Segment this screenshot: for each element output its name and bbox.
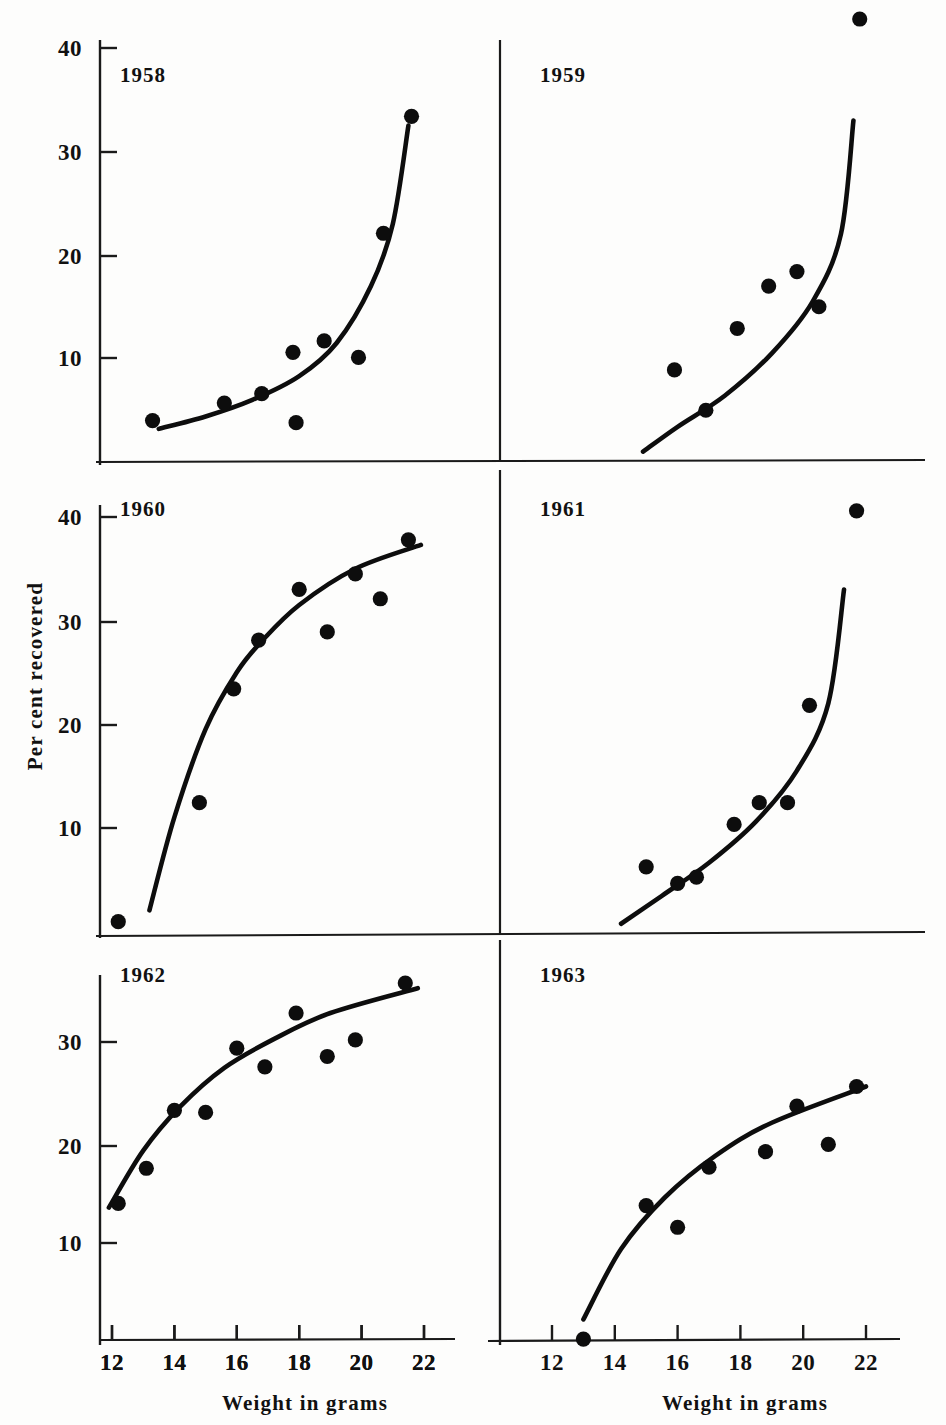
data-point-1963-5: [789, 1099, 804, 1114]
fit-curve-1963: [583, 1087, 866, 1320]
x-tick-label-1962-18: 18: [287, 1350, 311, 1375]
data-point-1962-1: [139, 1161, 154, 1176]
y-tick-label-1960-40: 40: [58, 505, 82, 530]
figure-panel-grid: 4030201012141618202219581959403020101960…: [0, 0, 946, 1425]
data-point-1958-8: [404, 109, 419, 124]
panel-year-label-1960: 1960: [120, 497, 166, 521]
fit-curve-1962: [109, 988, 418, 1207]
x-tick-label-1963-12: 12: [540, 1350, 564, 1375]
x-tick-label-1963-14: 14: [603, 1350, 627, 1375]
x-tick-label-1962-22: 22: [412, 1350, 436, 1375]
panel-divider-horizontal-2: [96, 932, 925, 936]
data-point-1963-0: [576, 1331, 591, 1346]
data-point-1960-7: [373, 591, 388, 606]
data-point-1960-3: [251, 633, 266, 648]
data-point-1961-6: [802, 698, 817, 713]
x-tick-label-1962-16: 16: [225, 1350, 249, 1375]
x-tick-label-1963-16: 16: [666, 1350, 690, 1375]
data-point-1958-2: [254, 386, 269, 401]
data-point-1963-1: [639, 1198, 654, 1213]
y-tick-label-1962-30: 30: [58, 1030, 82, 1055]
panel-1962: 3020101214161820221962: [58, 963, 436, 1375]
fit-curve-1959: [643, 120, 853, 451]
y-tick-label-1958-10: 10: [58, 346, 82, 371]
panel-year-label-1963: 1963: [540, 963, 586, 987]
data-point-1962-4: [229, 1041, 244, 1056]
data-point-1960-5: [320, 624, 335, 639]
data-point-1963-3: [701, 1160, 716, 1175]
panel-1961: 1961: [540, 497, 864, 924]
panel-1960: 403020101960: [58, 497, 421, 929]
panel-year-label-1961: 1961: [540, 497, 586, 521]
data-point-1960-1: [192, 795, 207, 810]
data-point-1962-5: [257, 1059, 272, 1074]
x-axis-title-left: Weight in grams: [222, 1391, 388, 1415]
multi-panel-scatter-figure: 4030201012141618202219581959403020101960…: [0, 0, 946, 1425]
data-point-1958-0: [145, 413, 160, 428]
panel-year-label-1958: 1958: [120, 63, 166, 87]
data-point-1961-1: [670, 876, 685, 891]
y-tick-label-1962-20: 20: [58, 1134, 82, 1159]
data-point-1960-2: [226, 681, 241, 696]
x-tick-label-1963-22: 22: [854, 1350, 878, 1375]
x-tick-label-1962-14: 14: [162, 1350, 186, 1375]
data-point-1958-7: [376, 226, 391, 241]
x-axis-line-right: [488, 1339, 900, 1341]
data-point-1961-3: [727, 817, 742, 832]
data-point-1959-1: [698, 403, 713, 418]
data-point-1958-1: [217, 395, 232, 410]
y-tick-label-1962-10: 10: [58, 1231, 82, 1256]
axis-rules-group: [96, 40, 925, 1345]
panel-1963: 1214161820221963: [540, 963, 878, 1375]
y-tick-label-1960-10: 10: [58, 816, 82, 841]
data-point-1958-6: [351, 350, 366, 365]
x-tick-label-1962-20: 20: [350, 1350, 374, 1375]
x-axis-title-right: Weight in grams: [662, 1391, 828, 1415]
x-tick-label-1963-20: 20: [791, 1350, 815, 1375]
x-tick-label-1962-12: 12: [100, 1350, 124, 1375]
data-point-1958-4: [288, 415, 303, 430]
data-point-1963-6: [821, 1137, 836, 1152]
data-point-1960-6: [348, 566, 363, 581]
data-point-1962-2: [167, 1103, 182, 1118]
data-point-1962-6: [288, 1005, 303, 1020]
y-tick-label-1960-30: 30: [58, 610, 82, 635]
y-tick-label-1960-20: 20: [58, 713, 82, 738]
fit-curve-1958: [159, 126, 409, 429]
y-tick-label-1958-20: 20: [58, 244, 82, 269]
data-point-1963-2: [670, 1220, 685, 1235]
y-tick-label-1958-30: 30: [58, 140, 82, 165]
panel-divider-horizontal-1: [96, 460, 925, 462]
data-point-1963-4: [758, 1144, 773, 1159]
data-point-1962-9: [398, 975, 413, 990]
data-point-1959-6: [852, 11, 867, 26]
data-point-1963-7: [849, 1079, 864, 1094]
data-point-1959-4: [789, 264, 804, 279]
data-point-1962-7: [320, 1049, 335, 1064]
data-point-1962-0: [111, 1196, 126, 1211]
data-point-1959-3: [761, 278, 776, 293]
data-point-1959-2: [730, 321, 745, 336]
data-point-1960-4: [292, 582, 307, 597]
panel-year-label-1962: 1962: [120, 963, 166, 987]
data-point-1960-0: [111, 914, 126, 929]
data-point-1962-3: [198, 1105, 213, 1120]
data-point-1960-8: [401, 532, 416, 547]
data-point-1961-5: [780, 795, 795, 810]
y-axis-title: Per cent recovered: [23, 582, 47, 770]
y-tick-label-1958-40: 40: [58, 36, 82, 61]
data-point-1961-0: [639, 859, 654, 874]
panel-1959: 1959: [540, 11, 867, 451]
data-point-1958-5: [317, 333, 332, 348]
data-point-1961-7: [849, 503, 864, 518]
data-point-1959-0: [667, 362, 682, 377]
data-point-1959-5: [811, 299, 826, 314]
panel-year-label-1959: 1959: [540, 63, 586, 87]
x-axis-line-left: [100, 1339, 455, 1340]
data-point-1962-8: [348, 1032, 363, 1047]
panel-1958: 403020101214161820221958: [58, 36, 436, 1375]
data-point-1958-3: [285, 345, 300, 360]
data-point-1961-4: [752, 795, 767, 810]
x-tick-label-1963-18: 18: [728, 1350, 752, 1375]
data-point-1961-2: [689, 870, 704, 885]
